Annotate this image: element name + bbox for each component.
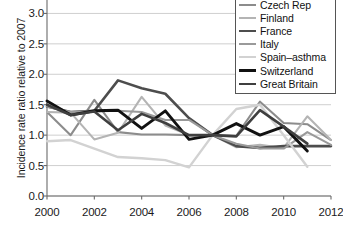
x-tick-label: 2012 bbox=[319, 206, 343, 218]
legend-label: Spain–asthma bbox=[260, 51, 326, 63]
x-tick-label: 2004 bbox=[129, 206, 154, 218]
legend-item-spain-asthma[interactable]: Spain–asthma bbox=[239, 51, 331, 64]
legend-swatch-icon bbox=[239, 4, 256, 6]
chart-legend: Czech RepFinlandFranceItalySpain–asthmaS… bbox=[235, 0, 336, 94]
x-tick-label: 2000 bbox=[35, 206, 60, 218]
series-line-spain-asthma bbox=[47, 105, 307, 168]
legend-item-great-britain[interactable]: Great Britain bbox=[239, 77, 331, 90]
legend-label: Finland bbox=[260, 12, 294, 24]
legend-item-france[interactable]: France bbox=[239, 24, 331, 37]
legend-item-italy[interactable]: Italy bbox=[239, 38, 331, 51]
legend-swatch-icon bbox=[239, 83, 256, 85]
legend-label: Czech Rep bbox=[260, 0, 311, 11]
x-tick-label: 2010 bbox=[271, 206, 296, 218]
legend-swatch-icon bbox=[239, 30, 256, 32]
legend-swatch-icon bbox=[239, 56, 256, 58]
x-tick-label: 2008 bbox=[224, 206, 249, 218]
x-tick-label: 2006 bbox=[177, 206, 202, 218]
legend-swatch-icon bbox=[239, 69, 256, 72]
legend-swatch-icon bbox=[239, 43, 256, 45]
legend-item-czech-rep[interactable]: Czech Rep bbox=[239, 0, 331, 11]
legend-swatch-icon bbox=[239, 17, 256, 19]
legend-label: Switzerland bbox=[260, 65, 313, 77]
legend-item-finland[interactable]: Finland bbox=[239, 11, 331, 24]
x-tick-label: 2002 bbox=[82, 206, 107, 218]
legend-item-switzerland[interactable]: Switzerland bbox=[239, 64, 331, 77]
legend-label: Great Britain bbox=[260, 78, 318, 90]
legend-label: France bbox=[260, 25, 292, 37]
legend-label: Italy bbox=[260, 38, 279, 50]
